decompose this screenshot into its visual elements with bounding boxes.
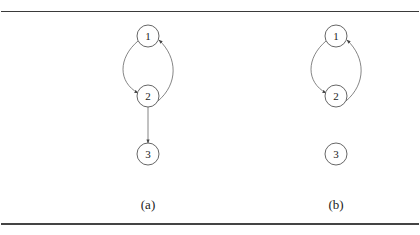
svg-text:1: 1 xyxy=(333,30,339,42)
node-b-1: 1 xyxy=(325,25,347,47)
edge-a-1-2 xyxy=(123,41,138,93)
edge-b-2-1 xyxy=(346,40,361,101)
caption-a: (a) xyxy=(141,197,155,213)
svg-text:3: 3 xyxy=(333,148,339,160)
graph-figure: 1 2 3 1 2 3 xyxy=(0,0,420,235)
caption-b: (b) xyxy=(328,197,343,213)
node-a-1: 1 xyxy=(137,25,159,47)
svg-text:1: 1 xyxy=(145,30,151,42)
panel-b: 1 2 3 xyxy=(311,25,361,165)
svg-text:3: 3 xyxy=(145,148,151,160)
node-a-2: 2 xyxy=(137,85,159,107)
edge-a-2-1 xyxy=(158,40,173,101)
edge-b-1-2 xyxy=(311,41,326,93)
panel-a: 1 2 3 xyxy=(123,25,173,165)
node-b-2: 2 xyxy=(325,85,347,107)
svg-text:2: 2 xyxy=(333,90,339,102)
node-b-3: 3 xyxy=(325,143,347,165)
node-a-3: 3 xyxy=(137,143,159,165)
svg-text:2: 2 xyxy=(145,90,151,102)
